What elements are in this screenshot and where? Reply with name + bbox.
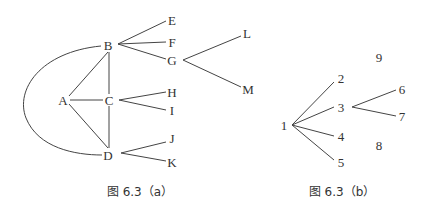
caption-figure-a: 图 6.3（a） (107, 185, 173, 199)
node-d: D (103, 148, 112, 163)
edge-1-2 (292, 82, 334, 125)
caption-figure-b: 图 6.3（b） (309, 185, 376, 199)
node-7: 7 (399, 109, 406, 124)
edge-d-j (121, 142, 166, 153)
edge-b-f (118, 42, 166, 44)
edge-3-7 (352, 107, 396, 116)
node-6: 6 (399, 82, 406, 97)
node-m: M (242, 82, 254, 97)
edge-c-h (119, 92, 166, 100)
edge-c-i (119, 100, 166, 110)
node-3: 3 (338, 100, 345, 115)
node-g: G (167, 53, 176, 68)
node-b: B (104, 38, 113, 53)
edge-g-m (183, 60, 241, 87)
figure-a-nodes: A B C D E F G H I J K L M (58, 13, 254, 170)
diagram-canvas: A B C D E F G H I J K L M 图 6.3（a） 1 2 3… (0, 0, 424, 209)
edge-d-k (121, 153, 166, 161)
edge-b-g (118, 44, 166, 59)
edge-a-d (69, 104, 108, 148)
node-e: E (168, 13, 176, 28)
node-2: 2 (338, 71, 345, 86)
node-a: A (58, 93, 68, 108)
edge-g-l (183, 36, 241, 60)
node-5: 5 (338, 155, 345, 170)
figure-b-nodes: 1 2 3 4 5 6 7 8 9 (281, 50, 406, 170)
node-f: F (168, 35, 175, 50)
node-i: I (170, 103, 174, 118)
edge-3-6 (352, 90, 396, 107)
node-l: L (243, 26, 251, 41)
edge-a-b (69, 52, 108, 96)
edge-b-e (118, 21, 166, 44)
node-9: 9 (376, 50, 383, 65)
node-8: 8 (376, 138, 383, 153)
edge-1-3 (292, 107, 334, 125)
node-c: C (105, 93, 114, 108)
node-4: 4 (338, 129, 345, 144)
node-1: 1 (281, 118, 288, 133)
node-k: K (167, 155, 177, 170)
node-h: H (167, 85, 176, 100)
node-j: J (169, 131, 174, 146)
figure-a-edges (23, 21, 241, 161)
